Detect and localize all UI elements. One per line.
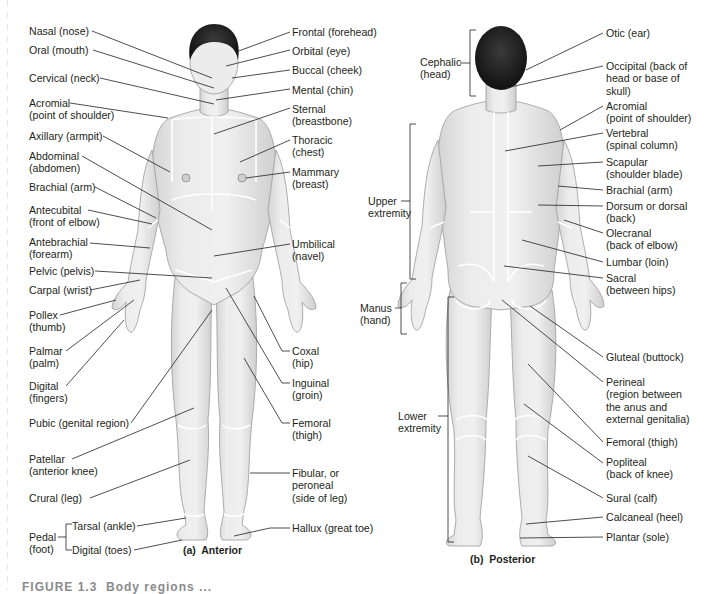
label-occipital: Occipital (back of head or base of skull… (606, 60, 687, 97)
label-scapular: Scapular (shoulder blade) (606, 156, 683, 181)
label-olecranal: Olecranal (back of elbow) (606, 227, 678, 252)
label-cephalic: Cephalic (head) (420, 56, 461, 81)
label-mammary: Mammary (breast) (292, 166, 339, 191)
label-sacral: Sacral (between hips) (606, 272, 676, 297)
label-orbital: Orbital (eye) (292, 45, 350, 57)
label-tarsal: Tarsal (ankle) (72, 520, 136, 532)
label-brachial: Brachial (arm) (29, 181, 96, 193)
label-umbilical: Umbilical (navel) (292, 238, 335, 263)
caption-anterior: (a) Anterior (183, 544, 242, 556)
label-dorsum: Dorsum or dorsal (back) (606, 200, 687, 225)
posterior-head-hair (475, 26, 527, 90)
label-thoracic: Thoracic (chest) (292, 134, 333, 159)
label-patellar: Patellar (anterior knee) (29, 453, 98, 478)
label-frontal: Frontal (forehead) (292, 26, 377, 38)
label-axillary: Axillary (armpit) (29, 130, 103, 142)
label-palmar: Palmar (palm) (29, 345, 63, 370)
label-pubic: Pubic (genital region) (29, 417, 129, 429)
label-digital-fingers: Digital (fingers) (29, 380, 68, 405)
label-abdominal: Abdominal (abdomen) (29, 150, 80, 175)
label-sural: Sural (calf) (606, 492, 657, 504)
figure-caption-partial: FIGURE 1.3 Body regions ... (22, 580, 212, 594)
label-lumbar: Lumbar (loin) (606, 256, 668, 268)
label-acromial: Acromial (point of shoulder) (29, 97, 114, 122)
label-upper-extremity: Upper extremity (368, 195, 411, 220)
posterior-figure (398, 80, 604, 546)
label-calcaneal: Calcaneal (heel) (606, 511, 683, 523)
label-plantar: Plantar (sole) (606, 531, 669, 543)
label-antebrachial: Antebrachial (forearm) (29, 236, 88, 261)
label-vertebral: Vertebral (spinal column) (606, 127, 678, 152)
label-coxal: Coxal (hip) (292, 345, 319, 370)
label-buccal: Buccal (cheek) (292, 64, 362, 76)
label-brachial-posterior: Brachial (arm) (606, 184, 673, 196)
label-nasal: Nasal (nose) (29, 25, 89, 37)
label-oral: Oral (mouth) (29, 44, 88, 56)
label-inguinal: Inguinal (groin) (292, 377, 329, 402)
label-carpal: Carpal (wrist) (29, 284, 92, 296)
label-lower-extremity: Lower extremity (398, 410, 441, 435)
label-pelvic: Pelvic (pelvis) (29, 265, 94, 277)
label-popliteal: Popliteal (back of knee) (606, 456, 673, 481)
label-pedal: Pedal (foot) (29, 531, 56, 556)
label-pollex: Pollex (thumb) (29, 309, 66, 334)
label-femoral-posterior: Femoral (thigh) (606, 436, 678, 448)
label-perineal: Perineal (region between the anus and ex… (606, 376, 690, 426)
label-manus: Manus (hand) (360, 302, 392, 327)
label-digital-toes: Digital (toes) (72, 544, 131, 556)
label-gluteal: Gluteal (buttock) (606, 351, 684, 363)
label-sternal: Sternal (breastbone) (292, 103, 352, 128)
label-hallux: Hallux (great toe) (292, 522, 373, 534)
label-antecubital: Antecubital (front of elbow) (29, 204, 100, 229)
label-crural: Crural (leg) (29, 492, 82, 504)
label-acromial-posterior: Acromial (point of shoulder) (606, 100, 691, 125)
label-fibular: Fibular, or peroneal (side of leg) (292, 467, 347, 504)
label-femoral-anterior: Femoral (thigh) (292, 417, 331, 442)
anterior-figure (112, 30, 316, 540)
label-mental: Mental (chin) (292, 84, 353, 96)
caption-posterior: (b) Posterior (470, 553, 535, 565)
label-otic: Otic (ear) (606, 27, 650, 39)
label-cervical: Cervical (neck) (29, 72, 100, 84)
